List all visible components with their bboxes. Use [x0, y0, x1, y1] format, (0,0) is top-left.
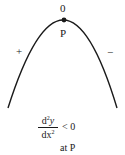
- slope-zero-label: 0: [60, 3, 66, 14]
- inequality-relation: < 0: [62, 122, 75, 132]
- maximum-point-P: [62, 18, 67, 23]
- at-point-qualifier: at P: [60, 143, 75, 153]
- second-derivative-fraction: d2y dx2: [38, 116, 58, 140]
- fraction-denominator: dx2: [42, 128, 55, 140]
- negative-slope-sign: −: [107, 47, 113, 58]
- point-P-label: P: [60, 28, 66, 39]
- fraction-numerator: d2y: [41, 116, 55, 127]
- positive-slope-sign: +: [16, 46, 22, 57]
